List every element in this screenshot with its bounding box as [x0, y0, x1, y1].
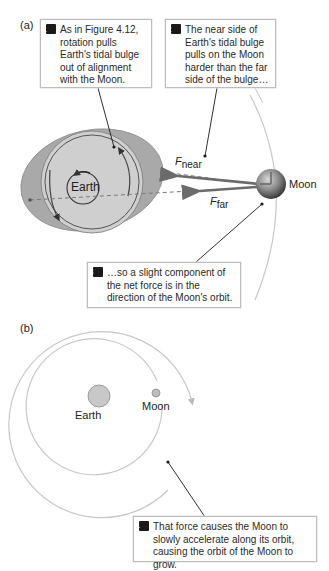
- moon-label-b: Moon: [142, 400, 170, 412]
- callout-1-text: As in Figure 4.12, rotation pulls Earth'…: [60, 24, 139, 85]
- force-near-label: Fnear: [175, 155, 202, 170]
- force-far-label: Ffar: [210, 195, 228, 210]
- leader-4: [168, 462, 205, 517]
- callout-1: 1As in Figure 4.12, rotation pulls Earth…: [40, 19, 152, 88]
- moon-label-a: Moon: [289, 178, 317, 190]
- panel-a-label: (a): [20, 19, 33, 31]
- callout-4-text: That force causes the Moon to slowly acc…: [153, 521, 294, 570]
- callout-4: 4That force causes the Moon to slowly ac…: [133, 516, 317, 562]
- callout-2: 2The near side of Earth's tidal bulge pu…: [165, 19, 276, 88]
- panel-b-label: (b): [20, 322, 33, 334]
- moon-b: [152, 389, 160, 397]
- callout-3: 3…so a slight component of the net force…: [87, 262, 241, 308]
- earth-label-a: Earth: [71, 180, 100, 194]
- leader-3: [196, 204, 262, 262]
- step-number-4: 4: [139, 521, 149, 531]
- callout-2-text: The near side of Earth's tidal bulge pul…: [185, 24, 268, 85]
- leader-2: [205, 88, 217, 156]
- step-number-1: 1: [46, 24, 56, 34]
- callout-3-text: …so a slight component of the net force …: [107, 267, 232, 303]
- step-number-2: 2: [171, 24, 181, 34]
- step-number-3: 3: [93, 267, 103, 277]
- earth-label-b: Earth: [75, 409, 101, 421]
- earth-b: [88, 385, 110, 407]
- outer-spiral-orbit: [9, 332, 192, 518]
